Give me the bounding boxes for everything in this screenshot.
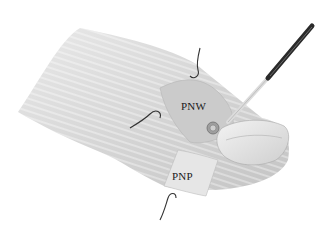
toe-body <box>18 28 289 190</box>
label-pnw: PNW <box>181 100 206 112</box>
nail-plate <box>217 120 289 165</box>
illustration-drawing <box>0 0 330 235</box>
matrix-target-circle <box>207 122 219 134</box>
toe-surgery-illustration: PNW PNP <box>0 0 330 235</box>
surgical-instrument <box>228 26 312 122</box>
label-pnp: PNP <box>172 170 193 182</box>
hook-lower <box>160 194 176 221</box>
